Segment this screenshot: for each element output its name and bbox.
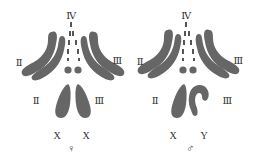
y-chromosome <box>189 85 209 116</box>
label-iv: Ⅳ <box>66 11 76 21</box>
chromosome-iv-pair <box>67 22 80 61</box>
label-ii-lower: Ⅱ <box>152 96 158 106</box>
label-ii-upper: Ⅱ <box>16 58 22 68</box>
female-karyotype-panel: Ⅳ Ⅱ Ⅲ Ⅱ Ⅲ X X ♀ <box>0 0 128 166</box>
x-chromosome-left <box>55 84 70 118</box>
label-iii-upper: Ⅲ <box>112 56 121 66</box>
x-chromosome <box>171 84 186 118</box>
chromosome-iv-pair <box>182 22 195 61</box>
label-ii-upper: Ⅱ <box>137 57 143 67</box>
label-iii-upper: Ⅲ <box>233 56 242 66</box>
dot-chromosome-right <box>74 66 81 73</box>
female-chromosomes-graphic <box>0 0 128 166</box>
label-iv: Ⅳ <box>181 11 191 21</box>
dot-chromosome-right <box>189 66 196 73</box>
label-x-right: X <box>82 131 89 141</box>
label-iii-lower: Ⅲ <box>222 96 231 106</box>
male-symbol: ♂ <box>186 143 194 154</box>
dot-chromosome-left <box>64 66 71 73</box>
label-y: Y <box>200 131 207 141</box>
female-symbol: ♀ <box>67 143 75 154</box>
label-iii-lower: Ⅲ <box>94 96 103 106</box>
dot-chromosome-left <box>179 66 186 73</box>
label-x-left: X <box>53 131 60 141</box>
male-karyotype-panel: Ⅳ Ⅱ Ⅲ Ⅱ Ⅲ X Y ♂ <box>128 0 256 166</box>
x-chromosome-right <box>75 84 90 118</box>
label-ii-lower: Ⅱ <box>33 96 39 106</box>
label-x: X <box>169 131 176 141</box>
